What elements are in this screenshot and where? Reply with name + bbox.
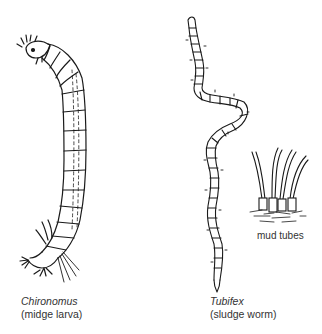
illustration-figure: Chironomus (midge larva) Tubifex (sludge… (0, 0, 322, 334)
tubifex-worm-drawing (186, 17, 249, 292)
organisms-drawing (0, 0, 322, 334)
chironomus-common-name: (midge larva) (21, 308, 82, 321)
tubifex-scientific-name: Tubifex (210, 295, 277, 308)
caption-tubifex: Tubifex (sludge worm) (210, 295, 277, 321)
caption-chironomus: Chironomus (midge larva) (21, 295, 82, 321)
tubifex-common-name: (sludge worm) (210, 308, 277, 321)
chironomus-scientific-name: Chironomus (21, 295, 82, 308)
chironomus-larva-drawing (17, 35, 86, 282)
mud-tubes-label: mud tubes (257, 229, 304, 242)
mud-tubes-drawing (250, 148, 308, 222)
